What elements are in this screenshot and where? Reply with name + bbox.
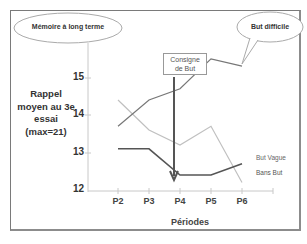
- consigne-line-2: de But: [164, 64, 206, 73]
- x-tick-p6: P6: [227, 196, 257, 206]
- callout-memoire-text: Mémoire à long terme: [20, 23, 116, 30]
- legend-sans-but: Bans But: [256, 169, 282, 176]
- legend-but-vague: But Vague: [256, 154, 286, 161]
- y-tick-13: 13: [58, 146, 84, 157]
- speech-bubble-tail: [242, 38, 258, 64]
- y-tick-12: 12: [58, 183, 84, 194]
- x-axis-label: Périodes: [150, 217, 230, 227]
- x-tick-p2: P2: [103, 196, 133, 206]
- consigne-line-1: Consigne: [164, 55, 206, 64]
- x-tick-p5: P5: [196, 196, 226, 206]
- x-tick-p4: P4: [165, 196, 195, 206]
- series-sans-but: [118, 149, 242, 175]
- x-tick-p3: P3: [134, 196, 164, 206]
- callout-but-difficile-text: But difficile: [240, 23, 300, 30]
- y-tick-14: 14: [58, 108, 84, 119]
- consigne-box: Consigne de But: [163, 53, 207, 75]
- y-label-line: Rappel: [14, 88, 78, 101]
- y-tick-15: 15: [58, 71, 84, 82]
- y-label-line: (max=21): [14, 126, 78, 139]
